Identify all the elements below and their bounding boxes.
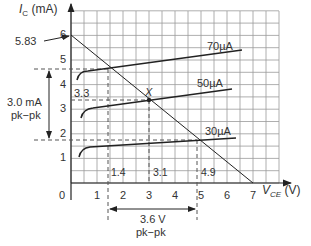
label-3-3: 3.3 [74,87,89,99]
current-swing-label: 3.0 mA [7,96,42,108]
transistor-output-characteristics-chart: IC (mA) VCE (V) 01234567 123456 70µA 50µ… [0,0,311,246]
x-tick-0: 0 [59,189,65,201]
y-tick-4: 4 [60,78,66,90]
x-tick-4: 4 [172,189,178,201]
x-tick-7: 7 [250,189,256,201]
voltage-swing-sub: pk−pk [136,226,166,238]
curve-50ua [81,89,232,118]
y-axis-label: IC (mA) [19,3,57,20]
y-tick-2: 2 [60,127,66,139]
label-50ua: 50µA [197,77,223,89]
curve-70ua [77,50,242,80]
q-point-x [147,98,151,102]
label-70ua: 70µA [207,40,233,52]
y-tick-1: 1 [60,151,66,163]
label-3-1: 3.1 [153,166,168,178]
x-tick-2: 2 [120,189,126,201]
x-tick-3: 3 [146,189,152,201]
curve-30ua [79,138,236,157]
chart-plot-area [0,0,311,246]
y-tick-5: 5 [60,53,66,65]
x-tick-6: 6 [224,189,230,201]
intercept-label: 5.83 [15,35,36,47]
current-swing-sub: pk−pk [11,109,41,121]
x-axis-label: VCE (V) [262,184,300,201]
label-4-9: 4.9 [201,166,216,178]
x-tick-5: 5 [198,189,204,201]
y-tick-3: 3 [60,102,66,114]
label-30ua: 30µA [205,125,231,137]
voltage-swing-label: 3.6 V [140,213,166,225]
y-tick-6: 6 [60,28,66,40]
x-tick-1: 1 [94,189,100,201]
q-point-label: X [145,86,152,98]
label-1-4: 1.4 [111,166,126,178]
